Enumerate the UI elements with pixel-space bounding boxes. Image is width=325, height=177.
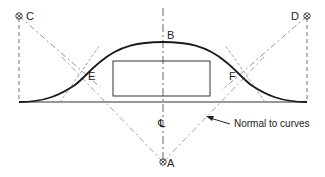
normal-line-a-e [60, 55, 163, 162]
arrow-icon [206, 116, 230, 124]
label-a: A [167, 157, 175, 169]
normal-to-curves-label: Normal to curves [234, 118, 310, 129]
label-b: B [167, 29, 174, 41]
centerline-symbol: ℄ [157, 117, 165, 129]
inner-rectangle [113, 61, 210, 96]
reverse-curve-diagram: C D B E F A ℄ Normal to curves [0, 0, 325, 177]
label-e: E [88, 70, 95, 82]
label-d: D [291, 10, 299, 22]
label-f: F [229, 70, 236, 82]
normal-line-a-f [163, 55, 266, 162]
label-c: C [26, 10, 34, 22]
